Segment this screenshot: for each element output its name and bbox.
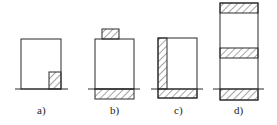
panel-b: b) [88, 29, 140, 117]
panel-label-b: b) [110, 104, 120, 117]
hatched-middle-d [220, 48, 258, 58]
panel-label-a: a) [37, 104, 46, 117]
hatched-base-b [95, 89, 134, 99]
panel-a: a) [15, 39, 68, 117]
hatched-base-c [158, 89, 197, 98]
hatched-base-d [220, 89, 258, 100]
hatched-top-d [220, 3, 258, 13]
panel-label-c: c) [174, 104, 183, 117]
hatched-support-a [49, 72, 61, 89]
panel-c: c) [151, 38, 203, 117]
block-b [95, 39, 134, 89]
panel-label-d: d) [234, 104, 244, 117]
diagram-canvas: a) b) c) d) [0, 0, 277, 125]
hatched-cap-b [102, 29, 119, 39]
panel-d: d) [213, 3, 264, 117]
hatched-wall-c [158, 38, 167, 89]
